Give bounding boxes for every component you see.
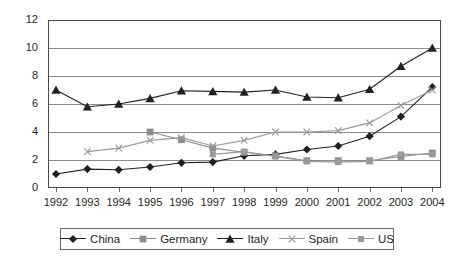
legend-item-germany[interactable]: Germany [130, 230, 207, 248]
legend-marker-diamond-icon [60, 233, 86, 245]
data-point [52, 170, 60, 178]
series-layer [0, 0, 454, 260]
series-line [56, 87, 432, 174]
data-point [398, 151, 404, 157]
series-spain [84, 87, 436, 155]
data-point [335, 159, 341, 165]
chart-legend: ChinaGermanyItalySpainUS [60, 228, 394, 250]
data-point [304, 158, 310, 164]
legend-label: China [90, 233, 120, 245]
data-point [428, 44, 437, 52]
legend-item-spain[interactable]: Spain [279, 230, 338, 248]
data-point [115, 166, 123, 174]
data-point [210, 151, 216, 157]
legend-label: Germany [160, 233, 207, 245]
data-point [177, 159, 185, 167]
data-point [209, 158, 217, 166]
series-line [87, 90, 432, 152]
data-point [147, 129, 154, 136]
data-point [367, 158, 373, 164]
legend-item-us[interactable]: US [348, 230, 394, 248]
legend-marker-square-icon [130, 233, 156, 245]
series-china [52, 83, 437, 178]
legend-label: Italy [247, 233, 268, 245]
data-point [241, 149, 247, 155]
data-point [366, 120, 373, 127]
data-point [334, 142, 342, 150]
legend-item-china[interactable]: China [60, 230, 120, 248]
data-point [273, 154, 279, 160]
legend-item-italy[interactable]: Italy [217, 230, 268, 248]
series-italy [51, 44, 437, 111]
chart-container: 024681012 199219931994199519961997199819… [0, 0, 454, 260]
legend-marker-small-square-icon [348, 233, 374, 245]
data-point [398, 102, 405, 109]
legend-label: US [378, 233, 394, 245]
data-point [396, 62, 405, 70]
data-point [366, 132, 374, 140]
legend-marker-cross-icon [279, 233, 305, 245]
data-point [83, 165, 91, 173]
data-point [429, 151, 435, 157]
data-point [365, 85, 374, 93]
data-point [303, 145, 311, 153]
legend-marker-triangle-icon [217, 233, 243, 245]
data-point [146, 163, 154, 171]
data-point [51, 86, 60, 94]
series-line [56, 48, 432, 107]
legend-label: Spain [309, 233, 338, 245]
